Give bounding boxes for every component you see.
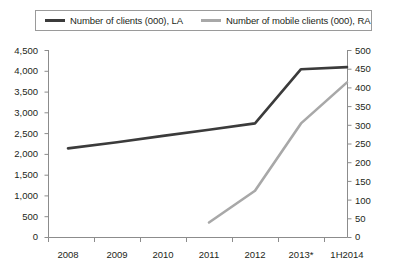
left-tick-4000: 4,000 xyxy=(4,66,38,76)
left-tick-3500: 3,500 xyxy=(4,87,38,97)
right-tick-400: 400 xyxy=(355,83,389,93)
x-axis-ticks xyxy=(49,238,325,243)
chart-container: Number of clients (000), LA Number of mo… xyxy=(0,0,407,273)
right-axis-ticks xyxy=(348,51,352,238)
right-tick-250: 250 xyxy=(355,139,389,149)
left-tick-3000: 3,000 xyxy=(4,108,38,118)
right-tick-50: 50 xyxy=(355,214,389,224)
series-line-mobile-clients xyxy=(209,82,347,222)
left-tick-2000: 2,000 xyxy=(4,149,38,159)
series-line-clients xyxy=(68,67,347,148)
left-tick-4500: 4,500 xyxy=(4,46,38,56)
right-tick-150: 150 xyxy=(355,177,389,187)
x-tick-1h2014: 1H2014 xyxy=(318,250,376,260)
right-tick-200: 200 xyxy=(355,158,389,168)
right-tick-300: 300 xyxy=(355,121,389,131)
left-tick-500: 500 xyxy=(4,212,38,222)
right-tick-0: 0 xyxy=(355,232,389,242)
left-tick-1500: 1,500 xyxy=(4,170,38,180)
left-tick-1000: 1,000 xyxy=(4,191,38,201)
right-tick-500: 500 xyxy=(355,46,389,56)
right-tick-450: 450 xyxy=(355,64,389,74)
right-tick-100: 100 xyxy=(355,196,389,206)
right-tick-350: 350 xyxy=(355,102,389,112)
plot-area xyxy=(0,0,407,273)
left-axis-ticks xyxy=(45,51,49,238)
left-tick-2500: 2,500 xyxy=(4,129,38,139)
left-tick-0: 0 xyxy=(4,232,38,242)
